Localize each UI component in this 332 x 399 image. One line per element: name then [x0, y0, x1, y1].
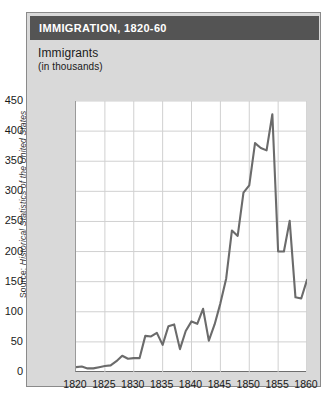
y-tick-label: 250: [0, 214, 23, 226]
y-tick-label: 400: [0, 124, 23, 136]
y-axis-title-line1: Immigrants: [38, 46, 103, 60]
x-tick-label: 1860: [284, 378, 328, 390]
y-tick-label: 50: [0, 335, 23, 347]
y-tick-label: 350: [0, 154, 23, 166]
chart-title: IMMIGRATION, 1820-60: [30, 22, 167, 34]
x-tick-labels: 182018251830183518401845185018551860: [75, 101, 306, 372]
chart-title-bar: IMMIGRATION, 1820-60: [30, 16, 319, 40]
immigration-chart-figure: Source: Historical Statistics of the Uni…: [0, 0, 332, 399]
y-tick-label: 150: [0, 275, 23, 287]
y-tick-label: 0: [0, 365, 23, 377]
y-tick-label: 100: [0, 305, 23, 317]
y-axis-title-line2: (in thousands): [38, 60, 103, 74]
plot-area: 050100150200250300350400450 182018251830…: [75, 101, 306, 372]
chart-card: IMMIGRATION, 1820-60 Immigrants (in thou…: [26, 12, 321, 387]
y-axis-title: Immigrants (in thousands): [38, 46, 103, 74]
y-tick-label: 450: [0, 94, 23, 106]
y-tick-label: 200: [0, 245, 23, 257]
y-tick-label: 300: [0, 184, 23, 196]
